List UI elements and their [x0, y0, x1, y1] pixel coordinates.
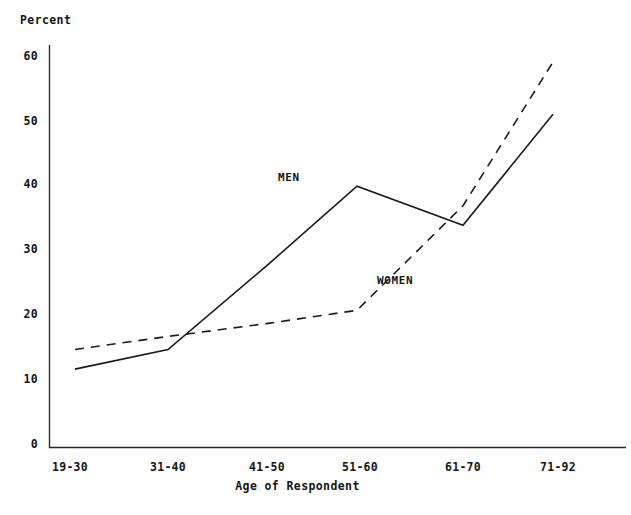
chart-container: Percent 60 50 40 30 20 10 0 MEN WOMEN 19… — [0, 0, 631, 515]
x-axis-title: Age of Respondent — [0, 479, 631, 493]
x-tick-label-41-50: 41-50 — [227, 460, 307, 474]
x-tick-label-71-92: 71-92 — [518, 460, 598, 474]
series-annotation-men: MEN — [278, 171, 300, 184]
plot-area — [0, 0, 631, 515]
series-line-women — [75, 62, 553, 349]
x-tick-label-61-70: 61-70 — [423, 460, 503, 474]
series-annotation-women: WOMEN — [377, 274, 413, 287]
x-tick-label-51-60: 51-60 — [320, 460, 400, 474]
x-tick-label-31-40: 31-40 — [128, 460, 208, 474]
x-tick-label-19-30: 19-30 — [30, 460, 110, 474]
series-line-men — [75, 114, 553, 369]
